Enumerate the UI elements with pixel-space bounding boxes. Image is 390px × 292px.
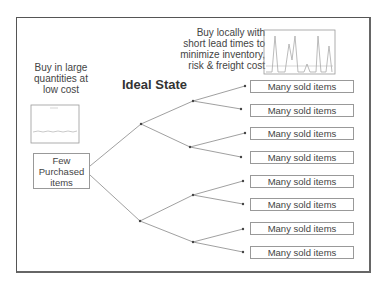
leaf-node: Many sold items	[250, 198, 354, 211]
root-node-line: Purchased	[34, 166, 89, 177]
leaf-node: Many sold items	[250, 80, 354, 93]
leaf-node: Many sold items	[250, 127, 354, 140]
leaf-node: Many sold items	[250, 104, 354, 117]
root-node-line: items	[34, 177, 89, 188]
root-node-line: Few	[34, 155, 89, 166]
flat-demand-chart-icon	[31, 105, 79, 143]
leaf-node: Many sold items	[250, 222, 354, 235]
leaf-node: Many sold items	[250, 246, 354, 259]
leaf-node: Many sold items	[250, 151, 354, 164]
leaf-node: Many sold items	[250, 175, 354, 188]
root-node-few-purchased-items: Few Purchased items	[33, 153, 90, 189]
